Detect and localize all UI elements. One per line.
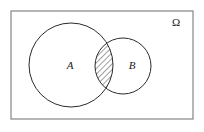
- set-b-label: B: [129, 59, 136, 71]
- venn-diagram-figure: A B Ω: [0, 0, 204, 132]
- set-a-label: A: [66, 59, 74, 71]
- venn-diagram-canvas: A B Ω: [0, 0, 204, 132]
- omega-universal-set-label: Ω: [172, 16, 180, 28]
